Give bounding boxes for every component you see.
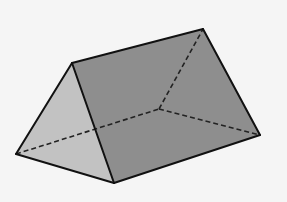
- triangular-prism-diagram: [0, 0, 287, 202]
